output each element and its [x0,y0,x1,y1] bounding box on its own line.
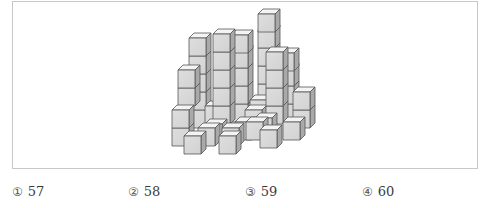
option-1[interactable]: ①57 [12,184,44,200]
option-4[interactable]: ④60 [362,184,394,200]
option-4-marker: ④ [362,185,373,199]
option-1-value: 57 [28,184,45,199]
option-3-marker: ③ [245,185,256,199]
option-1-marker: ① [12,185,23,199]
cube [260,125,282,148]
option-2[interactable]: ②58 [128,184,160,200]
option-3[interactable]: ③59 [245,184,277,200]
cube [172,105,194,128]
cube-layer [172,9,315,154]
option-2-value: 58 [144,184,161,199]
option-4-value: 60 [378,184,395,199]
answer-options: ①57 ②58 ③59 ④60 [0,184,482,204]
cube [189,33,211,56]
cube [178,65,200,88]
cube [213,29,235,52]
cube-stack-figure [0,0,482,175]
cube [266,47,288,70]
cube [184,131,206,154]
cube [258,9,280,32]
cube [219,131,241,154]
option-2-marker: ② [128,185,139,199]
cube [283,117,305,140]
cube [293,87,315,110]
option-3-value: 59 [261,184,278,199]
